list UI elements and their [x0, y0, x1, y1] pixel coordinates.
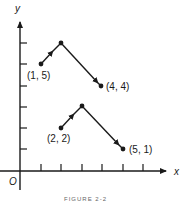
label-2-2: (2, 2)	[47, 133, 70, 144]
point-4-4	[99, 84, 104, 89]
point-2-2	[59, 126, 64, 131]
point-1-5	[39, 62, 44, 67]
label-1-5: (1, 5)	[27, 70, 50, 81]
origin-label: O	[9, 176, 17, 187]
label-5-1: (5, 1)	[129, 144, 152, 155]
figure-caption: FIGURE 2-2	[64, 196, 107, 201]
vertex-3-3	[80, 104, 85, 109]
point-5-1	[121, 147, 126, 152]
x-axis-label: x	[173, 166, 180, 177]
vertex-2-6	[59, 41, 64, 46]
label-4-4: (4, 4)	[106, 81, 129, 92]
x-ticks	[41, 164, 143, 171]
coordinate-diagram: y x O (1, 5) (4, 4) (2, 2) (5, 1) FIGURE…	[0, 0, 183, 201]
y-axis-label: y	[14, 3, 21, 14]
y-ticks	[20, 43, 27, 149]
